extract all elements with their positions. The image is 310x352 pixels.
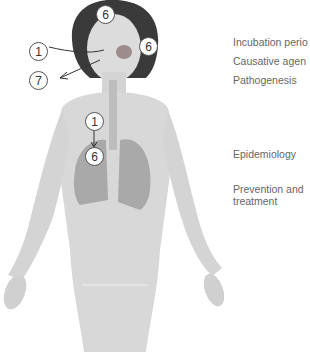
- body-illustration: 6 6 1 7 1 6: [0, 0, 230, 352]
- label-prevention-line2: treatment: [233, 195, 277, 207]
- marker-exhale: 7: [29, 71, 48, 90]
- marker-mouth: 1: [29, 42, 48, 61]
- marker-lung-bottom: 6: [85, 147, 104, 166]
- label-epidemiology: Epidemiology: [233, 148, 296, 160]
- label-symptoms: Symptoms: [233, 0, 283, 6]
- label-pathogenesis: Pathogenesis: [233, 74, 297, 86]
- label-incubation: Incubation perio: [233, 36, 308, 48]
- label-causative: Causative agen: [233, 55, 306, 67]
- marker-forehead: 6: [96, 5, 115, 24]
- marker-lung-top: 1: [85, 112, 104, 131]
- label-prevention-line1: Prevention and: [233, 183, 304, 195]
- marker-cheek: 6: [139, 37, 158, 56]
